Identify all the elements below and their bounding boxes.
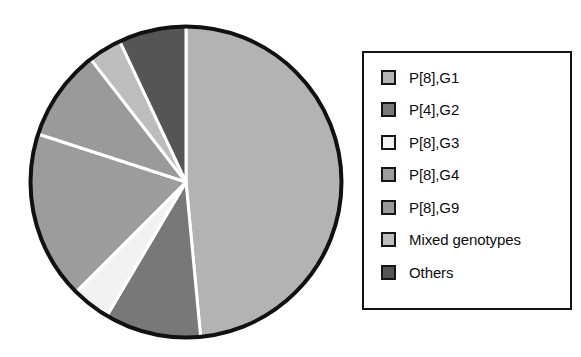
legend-item[interactable]: Mixed genotypes (364, 224, 570, 257)
pie-chart-area (26, 22, 346, 342)
legend-swatch (381, 200, 396, 215)
legend-item[interactable]: P[4],G2 (364, 94, 570, 127)
legend-item[interactable]: P[8],G3 (364, 126, 570, 159)
pie-chart-svg (26, 22, 346, 342)
legend-item-label: Others (409, 265, 453, 280)
legend-item-label: P[4],G2 (409, 102, 459, 117)
legend-swatch (381, 232, 396, 247)
pie-slice[interactable] (186, 25, 343, 338)
legend-item-label: P[8],G3 (409, 135, 459, 150)
legend-item-label: Mixed genotypes (409, 232, 521, 247)
legend-list: P[8],G1P[4],G2P[8],G3P[8],G4P[8],G9Mixed… (364, 61, 570, 289)
legend-swatch (381, 102, 396, 117)
legend-item-label: P[8],G4 (409, 167, 459, 182)
legend-swatch (381, 70, 396, 85)
legend-swatch (381, 167, 396, 182)
legend-item[interactable]: P[8],G1 (364, 61, 570, 94)
legend-item[interactable]: Others (364, 256, 570, 289)
legend-item[interactable]: P[8],G4 (364, 159, 570, 192)
legend-item-label: P[8],G9 (409, 200, 459, 215)
chart-legend: P[8],G1P[4],G2P[8],G3P[8],G4P[8],G9Mixed… (362, 51, 572, 310)
legend-swatch (381, 135, 396, 150)
legend-item[interactable]: P[8],G9 (364, 191, 570, 224)
pie-chart-figure: P[8],G1P[4],G2P[8],G3P[8],G4P[8],G9Mixed… (0, 0, 581, 357)
legend-item-label: P[8],G1 (409, 70, 459, 85)
legend-swatch (381, 265, 396, 280)
